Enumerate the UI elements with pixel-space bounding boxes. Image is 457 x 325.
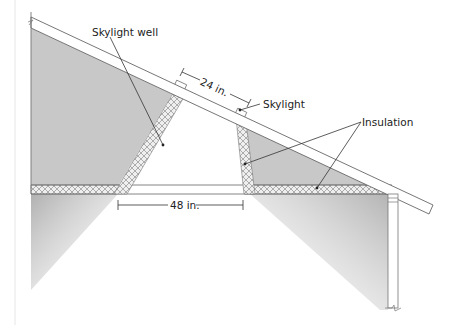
ceiling-insulation-left [31, 185, 120, 194]
dim-24-line-b [230, 94, 249, 103]
label-insulation: Insulation [362, 117, 413, 128]
skylight-leader-dot [239, 109, 242, 112]
skylight-well-leader-dot [162, 144, 165, 147]
right-room-shadow [250, 194, 388, 310]
left-room-shadow [31, 194, 118, 290]
label-skylight: Skylight [263, 99, 305, 110]
skylight-well-diagram [0, 0, 457, 325]
skylight-leader [240, 104, 260, 110]
label-48-in: 48 in. [170, 200, 200, 211]
label-skylight-well: Skylight well [92, 27, 158, 38]
right-exterior-wall [388, 194, 398, 308]
dim-24-tick-a [180, 68, 184, 76]
dim-24-tick-b [247, 99, 251, 107]
dim-24-line-a [182, 72, 200, 80]
insulation-leader-2-dot [316, 187, 319, 190]
ceiling-insulation-right [245, 185, 388, 194]
insulation-leader-1-dot [244, 163, 247, 166]
